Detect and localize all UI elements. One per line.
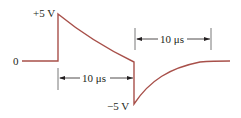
arrowhead-upper-left-icon bbox=[136, 37, 142, 41]
waveform-diagram: 0 +5 V −5 V 10 μs 10 μs bbox=[0, 0, 241, 118]
label-minus-5v: −5 V bbox=[107, 100, 129, 112]
label-interval-decay: 10 μs bbox=[160, 33, 184, 45]
voltage-waveform bbox=[22, 14, 230, 104]
arrowhead-left-icon bbox=[59, 76, 65, 80]
label-interval-pulse: 10 μs bbox=[82, 72, 106, 84]
arrowhead-right-icon bbox=[127, 76, 133, 80]
label-zero: 0 bbox=[13, 55, 19, 67]
label-plus-5v: +5 V bbox=[33, 7, 55, 19]
arrowhead-upper-right-icon bbox=[204, 37, 210, 41]
